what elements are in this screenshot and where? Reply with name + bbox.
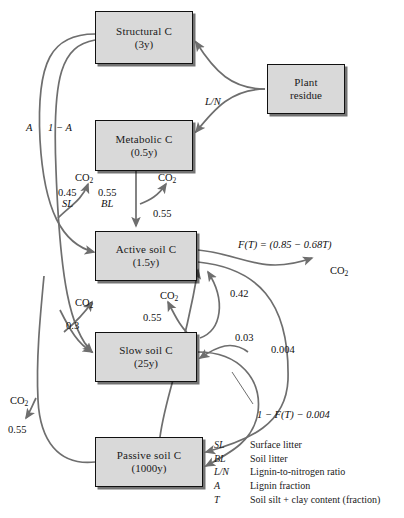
label-co2-structural: CO2 — [75, 172, 93, 185]
box-active-soil-c-name: Active soil C — [116, 243, 177, 256]
box-plant-residue[interactable]: Plant residue — [267, 64, 345, 114]
arrow-metabolic-co2 — [140, 184, 166, 204]
legend-row: T Soil silt + clay content (fraction) — [214, 493, 380, 507]
label-bl: BL — [101, 198, 113, 210]
label-ft-equation: F(T) = (0.85 − 0.68T) — [238, 239, 332, 251]
box-metabolic-c-turnover: (0.5y) — [131, 146, 158, 159]
label-a-fraction: A — [26, 122, 32, 134]
arrow-structural-to-active — [39, 34, 95, 252]
box-metabolic-c[interactable]: Metabolic C (0.5y) — [95, 120, 193, 171]
label-co2-metabolic: CO2 — [158, 172, 176, 185]
box-plant-residue-turnover: residue — [290, 89, 322, 102]
legend-row: BL Soil litter — [214, 452, 380, 466]
arrow-active-co2 — [198, 250, 312, 265]
legend-symbol: T — [214, 493, 250, 507]
legend-definition: Surface litter — [250, 438, 380, 452]
label-co2-passive: CO2 — [10, 395, 28, 408]
label-fraction-0004: 0.004 — [271, 344, 295, 356]
box-passive-soil-c-name: Passive soil C — [117, 449, 182, 462]
box-active-soil-c-turnover: (1.5y) — [133, 256, 160, 269]
legend-row: L/N Lignin-to-nitrogen ratio — [214, 465, 380, 479]
legend-row: A Lignin fraction — [214, 479, 380, 493]
label-sl: SL — [62, 198, 73, 210]
box-passive-soil-c-turnover: (1000y) — [132, 462, 167, 475]
label-fraction-03: 0.3 — [66, 320, 79, 332]
legend-symbol: A — [214, 479, 250, 493]
label-fraction-042: 0.42 — [230, 288, 248, 300]
label-one-minus-ft: 1 − F(T) − 0.004 — [257, 409, 330, 421]
legend-definition: Lignin-to-nitrogen ratio — [250, 465, 380, 479]
legend-definition: Lignin fraction — [250, 479, 380, 493]
legend-definition: Soil silt + clay content (fraction) — [250, 493, 380, 507]
legend-symbol: BL — [214, 452, 250, 466]
label-one-minus-a: 1 − A — [48, 122, 72, 134]
legend-definition: Soil litter — [250, 452, 380, 466]
box-metabolic-c-name: Metabolic C — [116, 133, 173, 146]
box-active-soil-c[interactable]: Active soil C (1.5y) — [95, 231, 197, 281]
label-co2-slow-left: CO2 — [75, 297, 93, 310]
label-fraction-003: 0.03 — [235, 332, 253, 344]
box-slow-soil-c[interactable]: Slow soil C (25y) — [95, 332, 197, 382]
arrow-plant-to-structural — [196, 42, 265, 89]
box-slow-soil-c-name: Slow soil C — [119, 344, 173, 357]
label-fraction-055-met: 0.55 — [153, 208, 171, 220]
label-fraction-055-pass: 0.55 — [8, 424, 26, 436]
box-passive-soil-c[interactable]: Passive soil C (1000y) — [95, 437, 203, 487]
label-fraction-055-slow: 0.55 — [143, 312, 161, 324]
arrow-slow-to-active — [200, 272, 219, 338]
label-fraction-045: 0.45 — [58, 187, 76, 199]
box-plant-residue-name: Plant — [294, 76, 318, 89]
box-slow-soil-c-turnover: (25y) — [134, 357, 158, 370]
legend: SL Surface litter BL Soil litter L/N Lig… — [214, 438, 380, 506]
box-structural-c[interactable]: Structural C (3y) — [95, 11, 193, 64]
label-fraction-055-bl: 0.55 — [98, 187, 116, 199]
legend-row: SL Surface litter — [214, 438, 380, 452]
label-co2-slow-mid: CO2 — [160, 290, 178, 303]
legend-symbol: L/N — [214, 465, 250, 479]
label-ln-ratio: L/N — [205, 96, 221, 108]
legend-symbol: SL — [214, 438, 250, 452]
label-co2-active: CO2 — [330, 265, 348, 278]
box-structural-c-name: Structural C — [116, 25, 172, 38]
box-structural-c-turnover: (3y) — [135, 38, 153, 51]
